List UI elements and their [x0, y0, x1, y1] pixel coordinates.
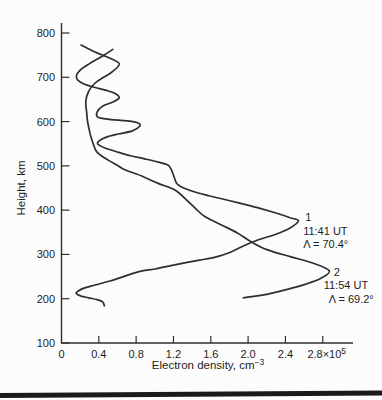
x-tick-label: 0.8: [128, 348, 143, 360]
x-axis-title: Electron density, cm−3: [152, 357, 265, 371]
x-axis-title-superscript: −3: [254, 357, 264, 367]
y-tick-label: 100: [37, 337, 55, 349]
x-axis-title-main: Electron density, cm: [152, 359, 255, 371]
x-tick-label: 2.4: [278, 348, 293, 360]
curve-annotations: 111:41 UTΛ = 70.4°211:54 UTΛ = 69.2°: [303, 211, 374, 305]
y-tick-label: 700: [37, 71, 55, 83]
y-tick-label: 200: [37, 293, 55, 305]
axis-frame: [62, 23, 354, 343]
x-tick-label: 0: [58, 348, 64, 360]
y-tick-label: 300: [37, 248, 55, 260]
annotation-1-line-1: 1: [305, 211, 311, 223]
profile-curve-1: [76, 49, 298, 305]
bottom-rule: [0, 391, 382, 399]
profile-curves: [76, 45, 329, 306]
x-tick-label: 2.8×105: [307, 346, 346, 360]
y-tick-label: 500: [37, 160, 55, 172]
y-tick-label: 400: [37, 204, 55, 216]
y-axis-title: Height, km: [15, 161, 27, 216]
annotation-2-line-3: Λ = 69.2°: [329, 293, 374, 305]
annotation-1-line-3: Λ = 70.4°: [303, 238, 348, 250]
electron-density-height-profile-chart: 10020030040050060070080000.40.81.21.62.0…: [0, 0, 382, 400]
y-tick-label: 600: [37, 116, 55, 128]
x-tick-label: 0.4: [91, 348, 106, 360]
figure-page: 10020030040050060070080000.40.81.21.62.0…: [0, 0, 382, 400]
annotation-2-line-1: 2: [334, 266, 340, 278]
annotation-1-line-2: 11:41 UT: [303, 225, 348, 237]
annotation-2-line-2: 11:54 UT: [324, 279, 369, 291]
y-tick-label: 800: [37, 27, 55, 39]
